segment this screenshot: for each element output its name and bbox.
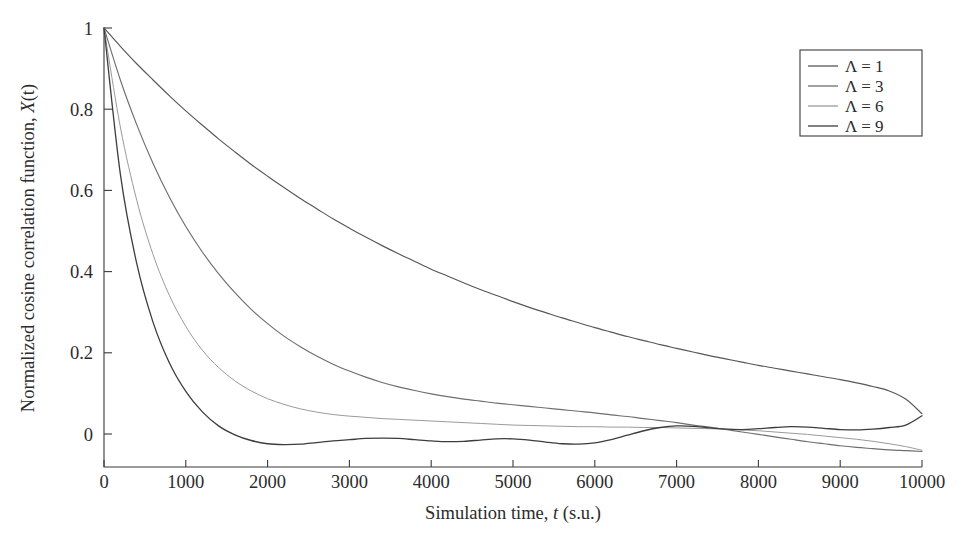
- figure-canvas: 0100020003000400050006000700080009000100…: [0, 0, 957, 547]
- y-axis-tick-labels: 00.20.40.60.81: [70, 19, 93, 445]
- data-series-group: [104, 28, 922, 451]
- y-axis-title-variable: X: [18, 101, 38, 114]
- y-tick-label: 0.6: [70, 181, 93, 201]
- y-tick-label: 0.8: [70, 100, 93, 120]
- x-tick-label: 4000: [413, 472, 450, 492]
- x-tick-label: 3000: [331, 472, 368, 492]
- y-tick-label: 0.2: [70, 343, 93, 363]
- series-line-1: [104, 28, 922, 414]
- x-tick-label: 2000: [249, 472, 286, 492]
- legend-label: Λ = 1: [845, 57, 883, 76]
- x-tick-label: 5000: [495, 472, 532, 492]
- legend-label: Λ = 3: [845, 77, 883, 96]
- x-axis-title: Simulation time, t (s.u.): [425, 503, 601, 524]
- axis-frame: [104, 28, 922, 467]
- series-line-6: [104, 28, 922, 450]
- x-tick-label: 6000: [576, 472, 613, 492]
- x-tick-label: 7000: [658, 472, 695, 492]
- correlation-function-chart: 0100020003000400050006000700080009000100…: [0, 0, 957, 547]
- y-tick-label: 0.4: [70, 262, 93, 282]
- y-tick-label: 1: [84, 19, 93, 39]
- y-axis-title-prefix: Normalized cosine correlation function,: [18, 113, 38, 413]
- x-tick-label: 0: [99, 472, 108, 492]
- x-tick-label: 1000: [167, 472, 204, 492]
- x-tick-label: 8000: [740, 472, 777, 492]
- x-tick-label: 9000: [822, 472, 859, 492]
- legend-label: Λ = 6: [845, 97, 883, 116]
- x-axis-title-suffix: (s.u.): [558, 503, 601, 524]
- y-axis-title-suffix: (t): [18, 84, 39, 101]
- legend: Λ = 1Λ = 3Λ = 6Λ = 9: [800, 50, 922, 136]
- y-axis-title: Normalized cosine correlation function, …: [18, 84, 39, 412]
- series-line-3: [104, 28, 922, 451]
- y-tick-label: 0: [84, 425, 93, 445]
- x-tick-label: 10000: [899, 472, 945, 492]
- x-axis-title-prefix: Simulation time,: [425, 503, 553, 523]
- x-axis-ticks: [104, 460, 922, 467]
- series-line-9: [104, 28, 922, 445]
- legend-label: Λ = 9: [845, 117, 883, 136]
- x-axis-tick-labels: 0100020003000400050006000700080009000100…: [99, 472, 945, 492]
